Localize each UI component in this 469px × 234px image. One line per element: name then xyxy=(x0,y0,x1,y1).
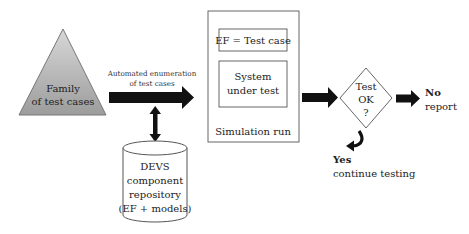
test-flow-diagram: Family of test cases Automated enumerati… xyxy=(0,0,469,234)
result-arrow-icon xyxy=(302,87,338,108)
no-label: No xyxy=(425,87,441,98)
system-under-test-box xyxy=(219,61,287,107)
decision-line1: Test xyxy=(356,81,377,92)
decision-line3: ? xyxy=(363,107,368,118)
test-ok-decision-diamond: Test OK ? xyxy=(340,68,392,128)
enumeration-arrow-icon xyxy=(109,86,194,109)
no-arrow-icon xyxy=(396,90,420,107)
simulation-run-box: EF = Test case System under test Simulat… xyxy=(208,11,299,142)
yes-curved-arrow-icon xyxy=(346,131,362,152)
repository-line1: DEVS xyxy=(140,161,170,172)
repository-line2: component xyxy=(127,175,183,186)
family-label-line2: of test cases xyxy=(32,96,95,107)
family-of-test-cases-triangle: Family of test cases xyxy=(19,29,106,115)
no-action: report xyxy=(425,101,457,112)
enumeration-label-line1: Automated enumeration xyxy=(107,69,197,78)
devs-repository-cylinder: DEVS component repository (EF + models) xyxy=(119,141,192,222)
enumeration-label-line2: of test cases xyxy=(129,79,175,88)
decision-line2: OK xyxy=(358,94,374,105)
sut-line1: System xyxy=(234,71,272,82)
ef-test-case-label: EF = Test case xyxy=(215,35,291,46)
bidirectional-arrow-icon xyxy=(150,106,162,142)
repository-line3: repository xyxy=(129,189,181,200)
family-label-line1: Family xyxy=(46,83,80,94)
repository-line4: (EF + models) xyxy=(119,203,192,214)
simulation-run-caption: Simulation run xyxy=(215,126,291,137)
yes-action: continue testing xyxy=(333,168,416,179)
yes-label: Yes xyxy=(332,154,352,165)
sut-line2: under test xyxy=(227,85,279,96)
